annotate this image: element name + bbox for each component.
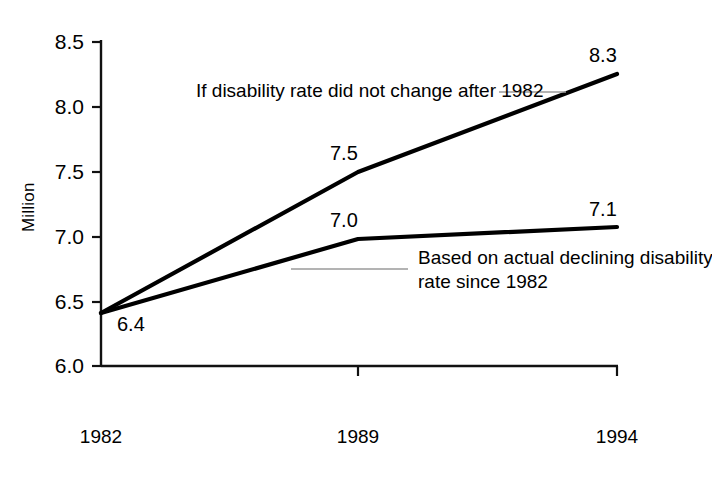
data-label-6-4: 6.4 bbox=[117, 313, 145, 337]
lower-annotation-line-2: rate since 1982 bbox=[418, 271, 548, 293]
y-axis-ticks bbox=[92, 42, 101, 366]
x-category-1989: 1989 Total population age 65+ 30.8 milli… bbox=[278, 379, 438, 479]
y-tick-label-6-0: 6.0 bbox=[22, 354, 84, 379]
data-label-8-3: 8.3 bbox=[589, 44, 617, 68]
data-label-7-0: 7.0 bbox=[330, 209, 358, 233]
x-category-1989-year: 1989 bbox=[278, 425, 438, 448]
x-axis-ticks bbox=[358, 366, 617, 376]
data-label-7-5: 7.5 bbox=[330, 142, 358, 166]
y-tick-label-8-0: 8.0 bbox=[22, 95, 84, 120]
y-tick-label-7-5: 7.5 bbox=[22, 160, 84, 185]
lower-annotation-line-1: Based on actual declining disability bbox=[418, 247, 712, 269]
upper-annotation-text: If disability rate did not change after … bbox=[196, 80, 544, 102]
y-axis-title: Million bbox=[19, 182, 39, 232]
chart-container: 8.5 8.0 7.5 7.0 6.5 6.0 Million 6.4 7.5 … bbox=[0, 0, 712, 479]
x-category-1994: 1994 Total population age 65+ 33.7 milli… bbox=[537, 379, 697, 479]
y-tick-label-8-5: 8.5 bbox=[22, 30, 84, 55]
x-category-1982-year: 1982 bbox=[21, 425, 181, 448]
data-label-7-1: 7.1 bbox=[589, 198, 617, 222]
x-category-1982: 1982 Total population age 65+ 26.9 milli… bbox=[21, 379, 181, 479]
x-category-1994-year: 1994 bbox=[537, 425, 697, 448]
y-tick-label-6-5: 6.5 bbox=[22, 290, 84, 315]
